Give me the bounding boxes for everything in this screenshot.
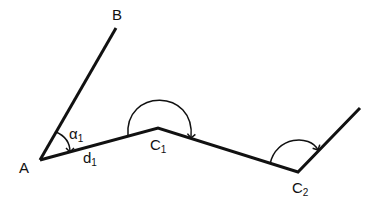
point-label-c1: C1	[150, 137, 166, 155]
traverse-diagram: A B C1 C2 α1 d1	[0, 0, 387, 205]
point-label-b: B	[112, 7, 122, 22]
angle-label-alpha1: α1	[69, 126, 83, 144]
angle-arc-alpha1	[56, 132, 70, 152]
distance-label-d1: d1	[83, 150, 97, 168]
point-label-c2: C2	[292, 180, 308, 198]
point-label-a: A	[19, 160, 29, 175]
diagram-lines	[0, 0, 387, 205]
